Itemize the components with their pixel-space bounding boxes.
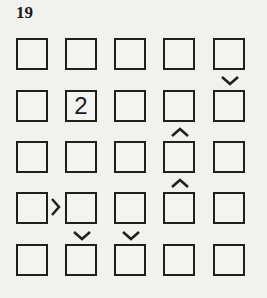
cell-r4-c1[interactable]	[16, 192, 48, 224]
greater-than-down-icon	[73, 231, 91, 241]
cell-r1-c2[interactable]	[65, 38, 97, 70]
cell-r4-c2[interactable]	[65, 192, 97, 224]
cell-r4-c4[interactable]	[163, 192, 195, 224]
greater-than-down-icon	[122, 231, 140, 241]
cell-r3-c1[interactable]	[16, 141, 48, 173]
cell-r5-c1[interactable]	[16, 244, 48, 276]
cell-r3-c3[interactable]	[114, 141, 146, 173]
less-than-up-icon	[171, 178, 189, 188]
cell-r2-c5[interactable]	[213, 90, 245, 122]
cell-r1-c1[interactable]	[16, 38, 48, 70]
cell-r2-c2-given: 2	[65, 90, 97, 122]
cell-r4-c5[interactable]	[213, 192, 245, 224]
cell-r3-c2[interactable]	[65, 141, 97, 173]
puzzle-number: 19	[16, 4, 33, 21]
cell-r2-c4[interactable]	[163, 90, 195, 122]
greater-than-right-icon	[51, 198, 61, 216]
cell-r1-c5[interactable]	[213, 38, 245, 70]
cell-r2-c1[interactable]	[16, 90, 48, 122]
cell-r4-c3[interactable]	[114, 192, 146, 224]
cell-r3-c4[interactable]	[163, 141, 195, 173]
cell-r5-c2[interactable]	[65, 244, 97, 276]
cell-r5-c4[interactable]	[163, 244, 195, 276]
cell-r1-c3[interactable]	[114, 38, 146, 70]
less-than-up-icon	[171, 127, 189, 137]
cell-r3-c5[interactable]	[213, 141, 245, 173]
cell-r1-c4[interactable]	[163, 38, 195, 70]
cell-r2-c3[interactable]	[114, 90, 146, 122]
cell-r5-c5[interactable]	[213, 244, 245, 276]
cell-r5-c3[interactable]	[114, 244, 146, 276]
greater-than-down-icon	[221, 76, 239, 86]
